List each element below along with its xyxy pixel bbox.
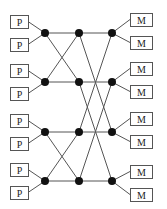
processor-label: P xyxy=(17,17,23,28)
switch-node xyxy=(108,128,116,136)
memory-label: M xyxy=(137,190,146,201)
switch-node xyxy=(75,177,83,185)
processor-label: P xyxy=(17,165,23,176)
processor-box: P xyxy=(11,65,29,78)
switch-node xyxy=(75,78,83,86)
memory-label: M xyxy=(137,167,146,178)
memory-box: M xyxy=(131,166,153,179)
memory-box: M xyxy=(131,63,153,76)
switch-node xyxy=(75,128,83,136)
switch-node xyxy=(108,29,116,37)
memory-box: M xyxy=(131,37,153,50)
switch-node xyxy=(108,78,116,86)
processor-box: P xyxy=(11,88,29,101)
processor-label: P xyxy=(17,40,23,51)
switch-node xyxy=(41,177,49,185)
processor-box: P xyxy=(11,39,29,52)
memory-label: M xyxy=(137,137,146,148)
processor-box: P xyxy=(11,187,29,200)
switch-node xyxy=(41,78,49,86)
memory-label: M xyxy=(137,15,146,26)
switch-nodes xyxy=(41,29,116,185)
processor-label: P xyxy=(17,66,23,77)
processor-box: P xyxy=(11,16,29,29)
switch-node xyxy=(41,29,49,37)
memory-label: M xyxy=(137,64,146,75)
processor-label: P xyxy=(17,116,23,127)
memory-box: M xyxy=(131,113,153,126)
memory-box: M xyxy=(131,189,153,202)
processor-box: P xyxy=(11,138,29,151)
processor-label: P xyxy=(17,89,23,100)
memory-label: M xyxy=(137,38,146,49)
memory-box: M xyxy=(131,86,153,99)
processor-boxes: PPPPPPPP xyxy=(11,16,29,200)
memory-boxes: MMMMMMMM xyxy=(131,14,153,202)
memory-box: M xyxy=(131,136,153,149)
network-wires xyxy=(28,20,130,195)
memory-label: M xyxy=(137,114,146,125)
interconnection-network-diagram: PPPPPPPP MMMMMMMM xyxy=(0,0,167,209)
switch-node xyxy=(41,128,49,136)
memory-label: M xyxy=(137,87,146,98)
processor-box: P xyxy=(11,164,29,177)
processor-box: P xyxy=(11,115,29,128)
switch-node xyxy=(108,177,116,185)
switch-node xyxy=(75,29,83,37)
memory-box: M xyxy=(131,14,153,27)
processor-label: P xyxy=(17,188,23,199)
processor-label: P xyxy=(17,139,23,150)
